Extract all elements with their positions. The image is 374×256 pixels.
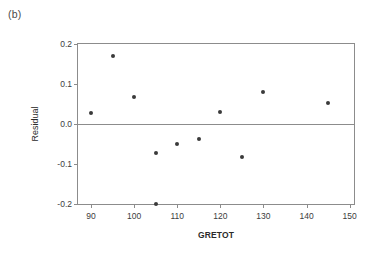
- data-point: [197, 137, 201, 141]
- y-tick-mark: [74, 164, 78, 165]
- data-point: [326, 101, 330, 105]
- x-tick-label: 130: [256, 211, 270, 221]
- data-point: [175, 142, 179, 146]
- x-tick-mark: [177, 204, 178, 208]
- y-tick-label: 0.2: [60, 39, 72, 49]
- data-point: [111, 54, 115, 58]
- y-axis-title-text: Residual: [30, 106, 40, 141]
- residual-plot-figure: (b) 0.20.10.0-0.1-0.2 901001101201301401…: [0, 0, 374, 256]
- y-tick-mark: [74, 124, 78, 125]
- x-tick-mark: [263, 204, 264, 208]
- y-tick-label: -0.2: [57, 199, 72, 209]
- x-tick-mark: [91, 204, 92, 208]
- x-tick-label: 140: [299, 211, 313, 221]
- data-point: [154, 151, 158, 155]
- y-axis-title: Residual: [28, 43, 42, 205]
- data-point: [132, 95, 136, 99]
- zero-reference-line: [78, 124, 354, 125]
- y-tick-mark: [74, 204, 78, 205]
- x-tick-label: 90: [86, 211, 95, 221]
- x-axis-title: GRETOT: [77, 230, 355, 240]
- data-point: [154, 202, 158, 206]
- data-point: [89, 111, 93, 115]
- x-tick-label: 110: [170, 211, 184, 221]
- x-tick-mark: [307, 204, 308, 208]
- x-tick-mark: [350, 204, 351, 208]
- x-tick-mark: [134, 204, 135, 208]
- plot-area: 0.20.10.0-0.1-0.2 90100110120130140150: [77, 43, 355, 205]
- y-tick-label: -0.1: [57, 159, 72, 169]
- y-tick-mark: [74, 44, 78, 45]
- data-point: [218, 110, 222, 114]
- y-tick-label: 0.1: [60, 79, 72, 89]
- data-point: [240, 155, 244, 159]
- data-point: [261, 90, 265, 94]
- x-tick-label: 150: [343, 211, 357, 221]
- panel-label: (b): [8, 8, 21, 20]
- x-tick-label: 100: [127, 211, 141, 221]
- x-tick-label: 120: [213, 211, 227, 221]
- y-tick-label: 0.0: [60, 119, 72, 129]
- y-tick-mark: [74, 84, 78, 85]
- x-tick-mark: [220, 204, 221, 208]
